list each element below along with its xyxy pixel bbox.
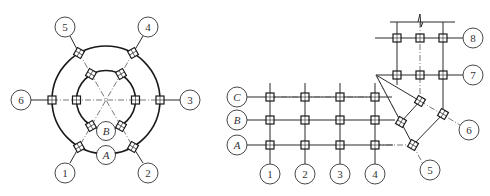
circular-plan: 5 4 6 3 1 2 B A — [11, 17, 200, 183]
ring-label: A — [102, 149, 110, 161]
axis-label: 4 — [145, 21, 151, 33]
axis-label: 5 — [62, 21, 68, 33]
row-bubble-B: B — [227, 110, 247, 130]
column-marker — [132, 96, 140, 104]
axis-bubble-1: 1 — [55, 163, 75, 183]
column-marker — [301, 141, 309, 149]
col-bubble-2: 2 — [295, 164, 315, 184]
axis-label: 5 — [427, 164, 433, 176]
col-bubble-4: 4 — [365, 164, 385, 184]
column-marker — [301, 116, 309, 124]
column-marker — [266, 141, 274, 149]
column-marker — [266, 116, 274, 124]
column-marker — [336, 93, 344, 101]
axis-bubble-6: 6 — [459, 120, 479, 140]
axis-bubble-7: 7 — [463, 65, 483, 85]
break-mark-icon — [418, 14, 423, 27]
column-marker — [74, 48, 85, 59]
ring-bubble-B: B — [97, 122, 116, 141]
column-marker — [74, 142, 85, 153]
row-label: A — [233, 139, 241, 151]
column-marker — [416, 71, 424, 79]
column-marker — [371, 93, 379, 101]
row-bubble-A: A — [227, 135, 247, 155]
connector — [413, 114, 443, 145]
axis-bubble-5: 5 — [55, 17, 75, 37]
axis-label: 7 — [470, 69, 476, 81]
axis-label: 8 — [470, 32, 476, 44]
column-marker — [371, 116, 379, 124]
col-label: 2 — [302, 168, 308, 180]
axis-label: 3 — [187, 94, 193, 106]
column-marker — [336, 116, 344, 124]
column-marker — [48, 96, 56, 104]
ring-bubble-A: A — [97, 146, 116, 165]
row-label: C — [233, 91, 241, 103]
column-marker — [266, 93, 274, 101]
col-label: 1 — [267, 168, 273, 180]
col-label: 4 — [372, 168, 378, 180]
column-marker — [336, 141, 344, 149]
axis-bubble-8: 8 — [463, 28, 483, 48]
column-marker — [439, 71, 447, 79]
row-bubble-C: C — [227, 87, 247, 107]
column-marker — [73, 96, 81, 104]
column-marker — [416, 34, 424, 42]
axis-bubble-3: 3 — [180, 90, 200, 110]
axis-bubble-2: 2 — [138, 163, 158, 183]
column-marker — [156, 96, 164, 104]
diagram-canvas: 5 4 6 3 1 2 B A — [0, 0, 490, 196]
axis-label: 6 — [466, 124, 472, 136]
l-shaped-grid: C B A 1 2 3 4 5 — [227, 14, 483, 184]
column-marker — [393, 71, 401, 79]
row-label: B — [234, 114, 241, 126]
column-marker — [371, 141, 379, 149]
column-marker — [301, 93, 309, 101]
axis-bubble-5: 5 — [420, 160, 440, 180]
col-label: 3 — [337, 168, 343, 180]
col-bubble-1: 1 — [260, 164, 280, 184]
column-marker — [393, 34, 401, 42]
axis-label: 1 — [62, 167, 68, 179]
axis-label: 6 — [18, 94, 24, 106]
axis-label: 2 — [145, 167, 151, 179]
column-marker — [439, 34, 447, 42]
axis-bubble-4: 4 — [138, 17, 158, 37]
axis-bubble-6: 6 — [11, 90, 31, 110]
col-bubble-3: 3 — [330, 164, 350, 184]
ring-label: B — [103, 125, 110, 137]
column-marker — [128, 48, 139, 59]
column-marker — [128, 142, 139, 153]
